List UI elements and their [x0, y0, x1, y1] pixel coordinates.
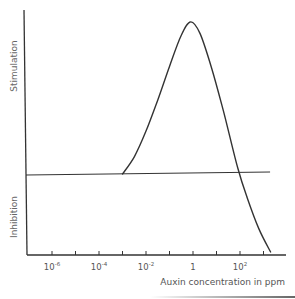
x-tick-label: 10-2	[138, 261, 154, 272]
inhibition-label: Inhibition	[9, 196, 19, 238]
page-edge-shadow	[150, 296, 295, 298]
x-tick-label: 102	[233, 261, 247, 272]
x-axis-tick-labels: 10-610-410-21102	[44, 261, 247, 272]
zero-effect-baseline	[26, 172, 270, 175]
y-axis	[24, 10, 27, 255]
auxin-response-chart: 10-610-410-21102 Auxin concentration in …	[0, 0, 295, 299]
x-tick-label: 1	[190, 262, 195, 272]
response-curve	[123, 22, 271, 252]
x-tick-label: 10-6	[44, 261, 61, 272]
x-tick-label: 10-4	[91, 261, 108, 272]
stimulation-label: Stimulation	[9, 40, 19, 91]
x-axis-title: Auxin concentration in ppm	[160, 277, 285, 287]
